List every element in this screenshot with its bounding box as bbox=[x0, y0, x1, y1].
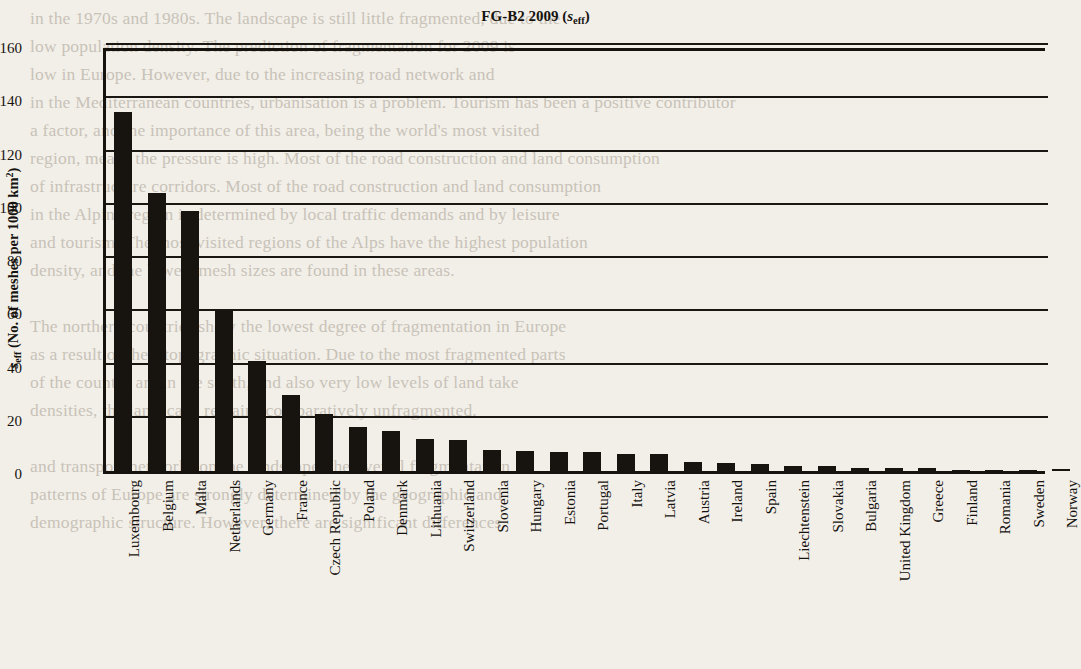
x-tick-label: Norway bbox=[1064, 432, 1081, 480]
x-tick-label-text: Ireland bbox=[729, 480, 746, 522]
x-tick-label-text: Denmark bbox=[394, 480, 411, 536]
x-tick-label: Portugal bbox=[595, 429, 612, 480]
x-tick-label: Belgium bbox=[160, 428, 177, 480]
y-tick-label: 160 bbox=[0, 40, 22, 57]
x-tick-label-text: Malta bbox=[193, 480, 210, 515]
x-tick-label-text: France bbox=[294, 480, 311, 521]
x-tick-label: Estonia bbox=[562, 435, 579, 480]
y-tick-label: 80 bbox=[0, 253, 22, 270]
x-tick-label-text: Lithuania bbox=[428, 480, 445, 537]
x-axis-tick-labels: LuxembourgBelgiumMaltaNetherlandsGermany… bbox=[103, 480, 1045, 665]
x-tick-label-text: Greece bbox=[930, 480, 947, 522]
x-tick-label: United Kingdom bbox=[897, 379, 914, 480]
x-tick-label: Austria bbox=[696, 436, 713, 480]
y-tick-label: 60 bbox=[0, 306, 22, 323]
x-tick-label: Lithuania bbox=[428, 423, 445, 480]
x-tick-label: Greece bbox=[930, 438, 947, 480]
x-tick-label-text: Portugal bbox=[595, 480, 612, 531]
x-tick-label: Slovenia bbox=[495, 428, 512, 481]
y-axis-title-text-end: ) bbox=[5, 168, 21, 173]
x-tick-label-text: Sweden bbox=[1031, 480, 1048, 528]
x-tick-label: Denmark bbox=[394, 424, 411, 480]
x-tick-label: Switzerland bbox=[461, 408, 478, 480]
chart-title: FG-B2 2009 (seff) bbox=[0, 8, 1071, 26]
x-tick-label-text: Austria bbox=[696, 480, 713, 524]
chart-title-paren-close: ) bbox=[585, 8, 590, 24]
y-tick-label: 100 bbox=[0, 199, 22, 216]
x-tick-label-text: Latvia bbox=[662, 480, 679, 518]
x-tick-label: Netherlands bbox=[227, 408, 244, 480]
x-tick-label: Italy bbox=[629, 453, 646, 481]
x-tick-label: Liechtenstein bbox=[796, 399, 813, 480]
x-tick-label: Romania bbox=[997, 426, 1014, 480]
x-tick-label: Latvia bbox=[662, 442, 679, 480]
x-tick-label-text: Bulgaria bbox=[863, 480, 880, 532]
x-tick-label-text: Romania bbox=[997, 480, 1014, 534]
y-tick-label: 140 bbox=[0, 93, 22, 110]
x-tick-label-text: Estonia bbox=[562, 480, 579, 525]
x-tick-label: Bulgaria bbox=[863, 428, 880, 480]
x-tick-label-text: Switzerland bbox=[461, 480, 478, 552]
x-tick-label-text: Italy bbox=[629, 480, 646, 508]
x-tick-label: Malta bbox=[193, 445, 210, 480]
x-tick-label: Sweden bbox=[1031, 433, 1048, 481]
x-tick-label: France bbox=[294, 439, 311, 480]
y-tick-label: 120 bbox=[0, 146, 22, 163]
y-tick-label: 20 bbox=[0, 412, 22, 429]
x-tick-label: Ireland bbox=[729, 438, 746, 480]
x-tick-label-text: Luxembourg bbox=[126, 480, 143, 557]
x-tick-label-text: Belgium bbox=[160, 480, 177, 532]
x-tick-label-text: Slovakia bbox=[830, 480, 847, 533]
x-tick-label: Germany bbox=[260, 424, 277, 480]
x-tick-label-text: United Kingdom bbox=[897, 480, 914, 581]
x-tick-label: Luxembourg bbox=[126, 403, 143, 480]
x-tick-label-text: Czech Republic bbox=[327, 480, 344, 575]
x-tick-label-text: Finland bbox=[964, 480, 981, 526]
x-tick-label: Spain bbox=[763, 446, 780, 480]
y-tick-label: 0 bbox=[0, 466, 22, 483]
x-tick-label-text: Liechtenstein bbox=[796, 480, 813, 561]
chart-title-symbol-subscript: eff bbox=[573, 15, 585, 26]
chart-title-main: FG-B2 2009 bbox=[481, 8, 558, 24]
x-tick-label-text: Slovenia bbox=[495, 480, 512, 533]
x-tick-label-text: Spain bbox=[763, 480, 780, 514]
x-tick-label-text: Poland bbox=[361, 480, 378, 522]
x-tick-label: Czech Republic bbox=[327, 385, 344, 480]
x-tick-label-text: Germany bbox=[260, 480, 277, 536]
bar bbox=[181, 211, 199, 471]
x-tick-label: Slovakia bbox=[830, 428, 847, 481]
x-tick-label-text: Hungary bbox=[528, 480, 545, 533]
y-axis-superscript: 2 bbox=[4, 172, 15, 177]
x-tick-label-text: Netherlands bbox=[227, 480, 244, 552]
x-tick-label: Finland bbox=[964, 434, 981, 480]
x-tick-label: Hungary bbox=[528, 428, 545, 481]
x-tick-label-text: Norway bbox=[1064, 480, 1081, 528]
gridline bbox=[106, 43, 1048, 45]
y-tick-label: 40 bbox=[0, 359, 22, 376]
x-tick-label: Poland bbox=[361, 438, 378, 480]
